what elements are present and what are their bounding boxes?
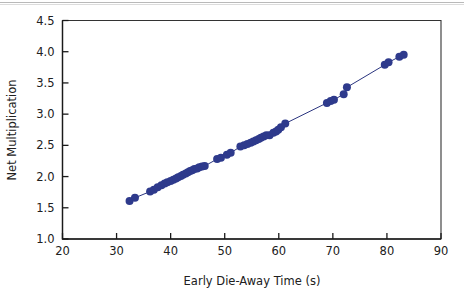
- x-tick-label: 20: [55, 244, 70, 258]
- x-tick-label: 70: [326, 244, 341, 258]
- x-tick-label: 60: [271, 244, 286, 258]
- x-axis-ticks: 2030405060708090: [55, 233, 448, 258]
- data-point-marker: [400, 51, 408, 59]
- data-point-marker: [227, 149, 235, 157]
- y-tick-label: 1.5: [36, 201, 54, 215]
- data-point-marker: [201, 162, 209, 170]
- scatter-chart: 2030405060708090 1.01.52.02.53.03.54.04.…: [0, 0, 464, 294]
- data-point-marker: [131, 194, 139, 202]
- x-tick-label: 90: [434, 244, 449, 258]
- x-tick-label: 40: [163, 244, 178, 258]
- y-axis-title: Net Multiplication: [5, 79, 19, 180]
- chart-page: 2030405060708090 1.01.52.02.53.03.54.04.…: [0, 0, 464, 294]
- x-axis-title: Early Die-Away Time (s): [184, 274, 321, 288]
- y-tick-label: 3.0: [36, 107, 54, 121]
- data-point-marker: [385, 58, 393, 66]
- data-point-marker: [340, 90, 348, 98]
- x-tick-label: 30: [109, 244, 124, 258]
- plot-frame: [63, 21, 442, 240]
- x-tick-label: 50: [217, 244, 232, 258]
- x-tick-label: 80: [380, 244, 395, 258]
- y-axis-ticks: 1.01.52.02.53.03.54.04.5: [36, 14, 68, 247]
- data-point-marker: [281, 120, 289, 128]
- data-point-marker: [330, 96, 338, 104]
- y-tick-label: 2.0: [36, 170, 54, 184]
- data-point-marker: [343, 83, 351, 91]
- y-tick-label: 2.5: [36, 138, 54, 152]
- y-tick-label: 4.0: [36, 45, 54, 59]
- series-data-markers: [126, 51, 408, 205]
- y-tick-label: 3.5: [36, 76, 54, 90]
- y-tick-label: 4.5: [36, 14, 54, 28]
- y-tick-label: 1.0: [36, 232, 54, 246]
